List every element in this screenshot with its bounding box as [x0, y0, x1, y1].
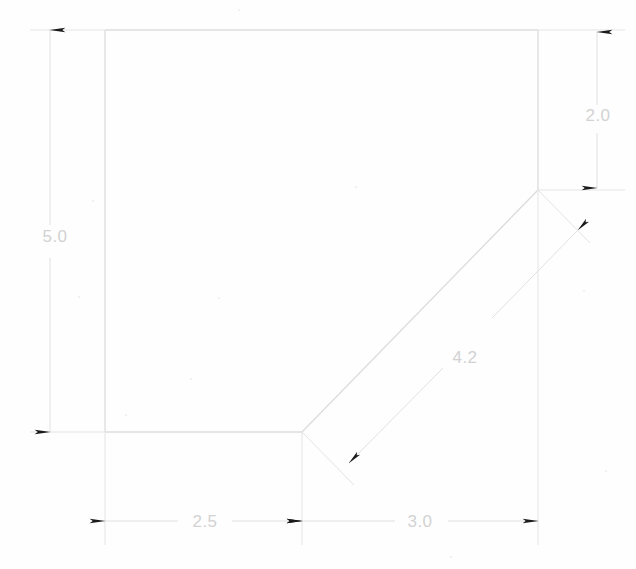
dim-label-width-left: 2.5 — [192, 512, 217, 531]
edge-chamfer-diagonal — [302, 190, 538, 432]
dimension-width-left: 2.5 — [105, 512, 302, 531]
dim-label-height-right: 2.0 — [585, 106, 610, 125]
drawing-sheet: 5.0 2.0 2.5 3.0 4.2 — [0, 0, 636, 569]
shape-outline — [105, 30, 538, 432]
dimension-height-left: 5.0 — [42, 30, 67, 432]
technical-drawing-canvas: 5.0 2.0 2.5 3.0 4.2 — [0, 0, 636, 569]
dimension-height-right: 2.0 — [585, 32, 610, 188]
dimension-width-right: 3.0 — [302, 512, 538, 531]
dim-label-chamfer-diagonal: 4.2 — [452, 348, 477, 367]
extension-line-diagonal-upper — [538, 190, 590, 243]
dim-label-height-left: 5.0 — [42, 227, 67, 246]
dim-line-4-2-lower — [349, 368, 443, 463]
extension-line-diagonal-lower — [302, 432, 354, 485]
extension-lines — [30, 30, 625, 545]
dimension-chamfer-diagonal: 4.2 — [349, 230, 578, 463]
dim-label-width-right: 3.0 — [407, 512, 432, 531]
dim-line-4-2-upper — [492, 230, 578, 318]
